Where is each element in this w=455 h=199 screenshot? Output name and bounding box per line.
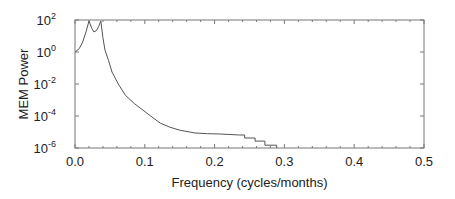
- x-tick-label: 0.5: [415, 154, 433, 169]
- y-tick-label: 100: [37, 43, 56, 60]
- y-tick-label: 10-4: [34, 107, 56, 124]
- x-axis-title: Frequency (cycles/months): [171, 175, 327, 190]
- x-tick-label: 0.0: [66, 154, 84, 169]
- y-axis-title: MEM Power: [16, 48, 31, 119]
- x-tick-label: 0.2: [206, 154, 224, 169]
- y-tick-label: 10-2: [34, 75, 56, 92]
- y-tick-label: 102: [37, 11, 56, 28]
- x-axis-ticks: 0.00.10.20.30.40.5: [66, 20, 433, 169]
- x-tick-label: 0.1: [136, 154, 154, 169]
- mem-power-spectrum-chart: 0.00.10.20.30.40.5 10210010-210-410-6 Fr…: [0, 0, 455, 199]
- x-tick-label: 0.3: [275, 154, 293, 169]
- x-tick-label: 0.4: [345, 154, 363, 169]
- plot-area-frame: [75, 20, 424, 148]
- mem-power-curve: [75, 21, 277, 148]
- y-tick-label: 10-6: [34, 139, 56, 156]
